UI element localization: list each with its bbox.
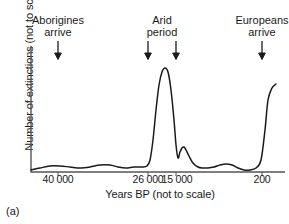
axes (31, 46, 285, 176)
x-axis-label: Years BP (not to scale) (31, 188, 289, 200)
axis-spine (31, 46, 285, 172)
x-tick-label-15000: 15 000 (157, 173, 197, 185)
arrow-europeans (259, 41, 266, 60)
extinction-curve (31, 68, 276, 170)
figure-caption: (a) (6, 205, 19, 217)
arrow-aborigines (55, 41, 62, 60)
x-tick-label-40000: 40 000 (38, 173, 78, 185)
x-tick-label-200: 200 (248, 173, 276, 185)
arrow-arid-end (173, 41, 180, 60)
event-arrows (55, 41, 266, 60)
arrow-arid-start (145, 41, 152, 60)
extinctions-figure: Number of extinctions (not to scale) Abo… (0, 0, 289, 224)
